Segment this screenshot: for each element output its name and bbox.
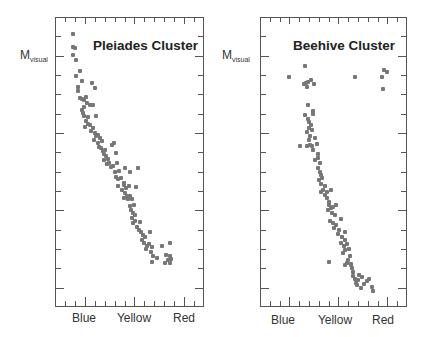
y-axis-tick [401,94,406,95]
y-axis-label-subscript: visual [232,56,250,63]
x-axis-tick [309,301,310,306]
y-axis-label-main: M [20,48,30,62]
data-point [74,58,78,62]
data-point [160,244,164,248]
data-point [168,261,172,265]
y-axis-tick [56,94,61,95]
y-axis-label-main: M [222,48,232,62]
data-point [83,125,87,129]
x-axis-tick [378,18,379,22]
data-point [114,151,118,155]
data-point [128,170,132,174]
y-axis-tick [261,56,269,57]
data-point [341,251,345,255]
data-point [316,156,320,160]
data-point [306,103,310,107]
x-axis-tick [154,18,155,22]
y-axis-tick [401,230,406,231]
y-axis-tick [56,75,61,76]
data-point [130,197,134,201]
data-point [84,95,88,99]
y-axis-tick [401,268,406,269]
data-point [310,128,314,132]
y-axis-tick [195,210,203,211]
data-point [71,53,75,57]
x-axis-tick [95,18,96,22]
data-point [381,87,385,91]
x-axis-tick [115,18,116,22]
x-axis-tick [299,301,300,306]
data-point [345,242,349,246]
x-axis-tick [174,301,175,306]
x-axis-tick [194,18,195,22]
data-point [298,144,302,148]
data-point [76,89,80,93]
data-point [313,136,317,140]
x-axis-tick [144,18,145,22]
data-point [380,75,384,79]
data-point [334,203,338,207]
x-axis-tick [309,18,310,22]
y-axis-tick [261,210,269,211]
x-axis-tick [85,18,86,24]
data-point [134,185,138,189]
data-point [100,139,104,143]
x-axis-tick [338,18,339,24]
x-axis-tick [184,18,185,24]
x-axis-tick [280,301,281,306]
y-axis-tick [261,114,266,115]
y-axis-tick [56,288,64,289]
data-point [385,70,389,74]
chart-title: Beehive Cluster [293,38,395,53]
x-axis-tick [358,301,359,306]
data-point [112,141,116,145]
data-point [339,217,343,221]
data-point [371,289,375,293]
x-axis-tick [65,18,66,22]
y-axis-tick [261,133,269,134]
x-axis-tick [164,18,165,22]
y-axis-tick [198,230,203,231]
x-axis-tick [144,301,145,306]
data-point [93,86,97,90]
y-axis-tick [198,75,203,76]
x-axis-tick [164,301,165,306]
data-point [150,260,154,264]
data-point [132,203,136,207]
data-point [311,112,315,116]
y-axis-tick [261,36,266,37]
y-axis-tick [261,230,266,231]
y-axis-tick [398,56,406,57]
data-point [71,32,75,36]
data-point [123,166,127,170]
x-axis-tick [319,301,320,306]
y-axis-tick [401,36,406,37]
y-axis-tick [56,114,61,115]
x-axis-tick [184,297,185,306]
y-axis-tick [401,114,406,115]
x-axis-tick [115,301,116,306]
x-axis-tick [270,18,271,22]
y-axis-tick [198,191,203,192]
data-point [119,176,123,180]
y-axis-label: Mvisual [222,48,250,63]
x-axis-tick [397,18,398,22]
x-axis-tick [125,301,126,306]
data-point [150,245,154,249]
y-axis-tick [56,268,61,269]
x-tick-label-blue: Blue [72,311,96,325]
x-axis-tick [154,301,155,306]
x-axis-tick [105,301,106,306]
x-axis-tick [358,18,359,22]
y-axis-tick [398,210,406,211]
data-point [320,176,324,180]
beehive-plot-frame [260,17,407,307]
x-axis-tick [125,18,126,22]
y-axis-tick [398,133,406,134]
x-tick-label-yellow: Yellow [117,311,151,325]
y-axis-tick [261,75,266,76]
x-axis-tick [105,18,106,22]
data-point [155,256,159,260]
y-axis-tick [56,210,64,211]
y-axis-tick [56,191,61,192]
